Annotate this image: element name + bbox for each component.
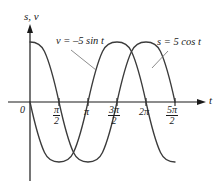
tick-numerator: π: [53, 105, 60, 115]
tick-denominator: 2: [53, 115, 60, 126]
origin-tick-label: 0: [20, 105, 25, 115]
tick-numerator: 3π: [108, 105, 120, 115]
trig-function-graph: s, v t v = –5 sin t s = 5 cos t 0 π 2 π …: [0, 0, 221, 184]
tick-denominator: 2: [108, 115, 120, 126]
tick-denominator: 2: [166, 115, 178, 126]
tick-label-2pi: 2π: [139, 107, 149, 117]
velocity-label-leader: [71, 50, 96, 70]
tick-numerator: 5π: [166, 105, 178, 115]
horizontal-axis-label: t: [209, 95, 212, 106]
tick-label-3pi-over-2: 3π 2: [108, 105, 120, 126]
tick-label-pi-over-2: π 2: [53, 105, 60, 126]
velocity-curve-label: v = –5 sin t: [56, 36, 104, 47]
tick-label-5pi-over-2: 5π 2: [166, 105, 178, 126]
graph-canvas: [0, 0, 221, 184]
tick-label-pi: π: [84, 107, 89, 117]
vertical-axis-label: s, v: [24, 11, 39, 22]
position-curve-label: s = 5 cos t: [157, 37, 201, 48]
